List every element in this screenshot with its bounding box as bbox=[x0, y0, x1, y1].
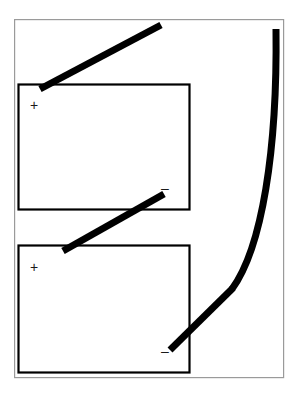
schematic-canvas bbox=[0, 0, 299, 395]
figure-root: + – + – bbox=[0, 0, 299, 395]
curved-conductor bbox=[232, 29, 276, 289]
lower-positive-terminal-label: + bbox=[30, 260, 38, 274]
lower-negative-terminal-label: – bbox=[161, 344, 169, 358]
top-lead-line bbox=[40, 25, 161, 89]
upper-negative-terminal-label: – bbox=[161, 181, 169, 195]
upper-positive-terminal-label: + bbox=[30, 98, 38, 112]
